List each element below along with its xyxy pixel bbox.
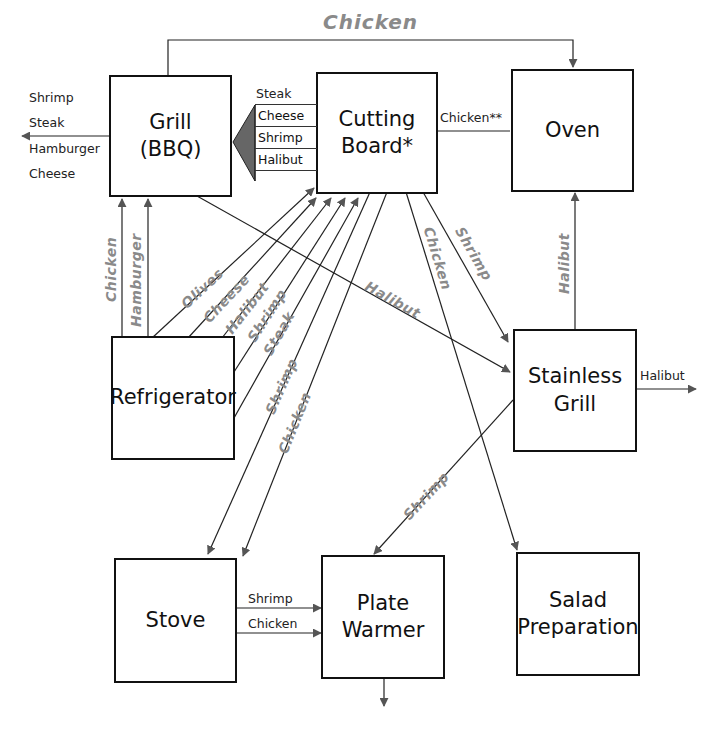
- grill-out-cheese: Cheese: [29, 166, 75, 181]
- node-stove[interactable]: Stove: [114, 558, 237, 683]
- stainless-out-halibut: Halibut: [640, 368, 685, 383]
- node-grill-bbq-line2: (BBQ): [140, 136, 202, 163]
- fridge-to-grill-chicken: Chicken: [103, 237, 119, 302]
- grill-out-steak: Steak: [29, 115, 64, 130]
- node-salad-prep-line2: Preparation: [517, 614, 638, 641]
- node-stove-label: Stove: [146, 607, 206, 634]
- node-cutting-board-line1: Cutting: [339, 106, 416, 133]
- node-stainless-grill-line2: Grill: [528, 391, 622, 418]
- node-plate-warmer-line2: Warmer: [342, 617, 425, 644]
- node-refrigerator[interactable]: Refrigerator: [111, 336, 235, 460]
- node-plate-warmer[interactable]: PlateWarmer: [321, 555, 445, 679]
- node-stainless-grill[interactable]: StainlessGrill: [513, 329, 637, 452]
- node-plate-warmer-line1: Plate: [342, 590, 425, 617]
- oven-to-board-chicken: Chicken**: [440, 110, 502, 125]
- node-salad-preparation[interactable]: SaladPreparation: [516, 552, 640, 676]
- node-stainless-grill-line1: Stainless: [528, 363, 622, 390]
- node-cutting-board[interactable]: CuttingBoard*: [316, 72, 438, 194]
- grill-out-shrimp: Shrimp: [29, 90, 74, 105]
- node-salad-prep-line1: Salad: [517, 587, 638, 614]
- node-oven-label: Oven: [545, 117, 600, 144]
- board-to-grill-halibut: Halibut: [255, 149, 317, 171]
- node-refrigerator-label: Refrigerator: [110, 384, 236, 411]
- board-to-grill-steak: Steak: [256, 86, 291, 101]
- node-cutting-board-line2: Board*: [339, 133, 416, 160]
- board-to-grill-shrimp: Shrimp: [255, 127, 317, 149]
- board-to-grill-cheese: Cheese: [255, 105, 317, 127]
- board-to-grill-stack: Cheese Shrimp Halibut: [255, 104, 317, 171]
- label-top-chicken: Chicken: [323, 10, 418, 34]
- stove-to-warmer-shrimp: Shrimp: [248, 591, 293, 606]
- fridge-to-grill-hamburger: Hamburger: [128, 233, 144, 327]
- node-oven[interactable]: Oven: [511, 69, 634, 192]
- grill-out-hamburger: Hamburger: [29, 141, 100, 156]
- stainless-to-oven-halibut: Halibut: [556, 233, 572, 294]
- stove-to-warmer-chicken: Chicken: [248, 616, 297, 631]
- node-grill-bbq[interactable]: Grill(BBQ): [109, 75, 232, 197]
- node-grill-bbq-line1: Grill: [140, 109, 202, 136]
